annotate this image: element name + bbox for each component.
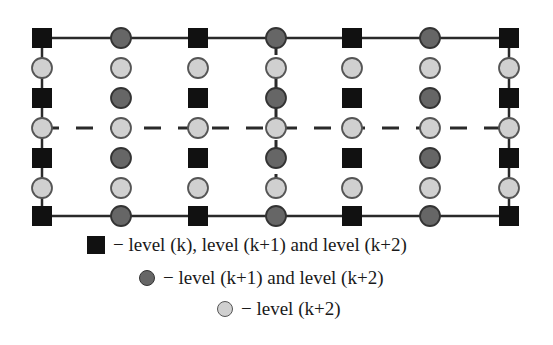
black-square-node bbox=[499, 206, 519, 226]
light-circle-node bbox=[420, 58, 440, 78]
dark-circle-node bbox=[266, 206, 286, 226]
dark-circle-node bbox=[111, 148, 131, 168]
black-square-node bbox=[342, 148, 362, 168]
black-square-node bbox=[188, 148, 208, 168]
grid-nodes bbox=[32, 28, 519, 226]
light-circle-node bbox=[111, 178, 131, 198]
light-circle-node bbox=[499, 58, 519, 78]
light-circle-node bbox=[499, 118, 519, 138]
light-circle-node bbox=[266, 58, 286, 78]
black-square-node bbox=[32, 88, 52, 108]
dark-circle-node bbox=[266, 28, 286, 48]
light-circle-node bbox=[111, 58, 131, 78]
light-circle-node bbox=[342, 58, 362, 78]
dark-circle-node bbox=[111, 28, 131, 48]
dark-circle-node bbox=[266, 88, 286, 108]
black-square-node bbox=[32, 206, 52, 226]
black-square-icon bbox=[87, 236, 105, 254]
dark-circle-node bbox=[420, 28, 440, 48]
light-circle-node bbox=[32, 178, 52, 198]
light-circle-node bbox=[342, 118, 362, 138]
black-square-node bbox=[188, 28, 208, 48]
legend-item-square: − level (k), level (k+1) and level (k+2) bbox=[87, 234, 407, 256]
light-circle-node bbox=[499, 178, 519, 198]
dark-circle-node bbox=[420, 148, 440, 168]
light-circle-node bbox=[32, 58, 52, 78]
legend-item-light-circle: − level (k+2) bbox=[217, 298, 341, 320]
black-square-node bbox=[499, 148, 519, 168]
black-square-node bbox=[188, 88, 208, 108]
light-circle-node bbox=[188, 58, 208, 78]
legend-label-square: − level (k), level (k+1) and level (k+2) bbox=[113, 234, 407, 256]
black-square-node bbox=[32, 148, 52, 168]
light-circle-node bbox=[342, 178, 362, 198]
light-circle-node bbox=[266, 178, 286, 198]
legend-label-dark-circle: − level (k+1) and level (k+2) bbox=[163, 267, 384, 289]
black-square-node bbox=[342, 88, 362, 108]
light-circle-icon bbox=[217, 301, 233, 317]
black-square-node bbox=[499, 88, 519, 108]
dark-circle-node bbox=[420, 206, 440, 226]
legend-label-light-circle: − level (k+2) bbox=[241, 298, 341, 320]
dark-circle-node bbox=[420, 88, 440, 108]
black-square-node bbox=[499, 28, 519, 48]
black-square-node bbox=[32, 28, 52, 48]
light-circle-node bbox=[188, 178, 208, 198]
dark-circle-node bbox=[266, 148, 286, 168]
black-square-node bbox=[342, 28, 362, 48]
light-circle-node bbox=[188, 118, 208, 138]
multilevel-grid-diagram bbox=[0, 0, 553, 230]
dark-circle-node bbox=[111, 88, 131, 108]
legend-item-dark-circle: − level (k+1) and level (k+2) bbox=[139, 267, 384, 289]
light-circle-node bbox=[420, 118, 440, 138]
light-circle-node bbox=[420, 178, 440, 198]
black-square-node bbox=[342, 206, 362, 226]
light-circle-node bbox=[111, 118, 131, 138]
light-circle-node bbox=[266, 118, 286, 138]
black-square-node bbox=[188, 206, 208, 226]
dark-circle-icon bbox=[139, 270, 155, 286]
dark-circle-node bbox=[111, 206, 131, 226]
light-circle-node bbox=[32, 118, 52, 138]
